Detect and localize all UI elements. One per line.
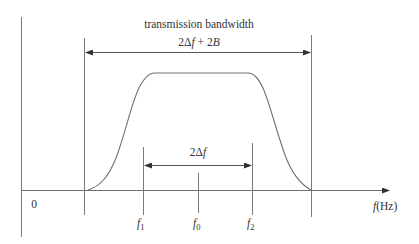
- f1-label: f1: [137, 217, 144, 232]
- origin-label: 0: [31, 198, 37, 210]
- f2-label: f2: [247, 217, 254, 232]
- bandwidth-diagram: transmission bandwidth 2Δf + 2B 2Δf 0 f(…: [0, 0, 419, 244]
- spectrum-curve: [88, 73, 311, 190]
- axis-label: f(Hz): [373, 200, 397, 213]
- f0-label: f0: [193, 217, 200, 232]
- transmission-bandwidth-label: transmission bandwidth: [144, 18, 254, 30]
- outer-span-label: 2Δf + 2B: [178, 36, 219, 49]
- inner-span-label: 2Δf: [190, 146, 208, 159]
